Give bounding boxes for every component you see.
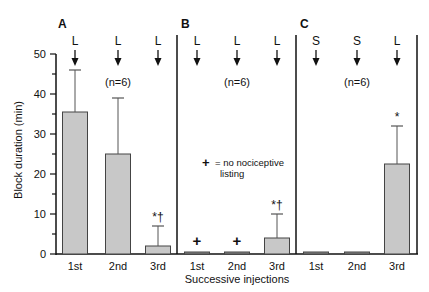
injection-label: L xyxy=(72,34,79,48)
injection-label: L xyxy=(274,34,281,48)
bar xyxy=(225,252,250,254)
no-nociceptive-marker: + xyxy=(233,232,242,249)
x-tick-label: 3rd xyxy=(150,260,166,272)
bar xyxy=(146,246,171,254)
panel-label: A xyxy=(58,17,67,31)
injection-label: L xyxy=(394,34,401,48)
injection-label: L xyxy=(115,34,122,48)
arrowhead-icon xyxy=(72,58,79,66)
arrowhead-icon xyxy=(394,58,401,66)
significance-marker: *† xyxy=(152,210,163,224)
injection-label: L xyxy=(194,34,201,48)
y-tick-label: 0 xyxy=(40,248,46,260)
y-tick-label: 40 xyxy=(34,88,46,100)
bar xyxy=(385,164,410,254)
bar xyxy=(345,252,370,254)
x-tick-label: 2nd xyxy=(109,260,127,272)
arrowhead-icon xyxy=(115,58,122,66)
axes: 01020304050 xyxy=(34,35,418,260)
injection-label: L xyxy=(155,34,162,48)
significance-marker: * xyxy=(395,110,400,124)
n-label: (n=6) xyxy=(344,76,370,88)
arrowhead-icon xyxy=(234,58,241,66)
bar xyxy=(106,154,131,254)
arrowhead-icon xyxy=(155,58,162,66)
x-tick-label: 1st xyxy=(190,260,205,272)
injection-label: S xyxy=(353,34,361,48)
panel-label: B xyxy=(181,17,190,31)
x-tick-label: 3rd xyxy=(389,260,405,272)
significance-marker: *† xyxy=(271,198,282,212)
x-tick-label: 1st xyxy=(309,260,324,272)
n-label: (n=6) xyxy=(224,76,250,88)
x-tick-label: 3rd xyxy=(269,260,285,272)
y-axis-label: Block duration (min) xyxy=(12,101,24,199)
y-tick-label: 10 xyxy=(34,208,46,220)
legend-note: + = no nociceptive listing xyxy=(202,155,284,179)
legend-plus-symbol: + xyxy=(202,155,210,170)
panel-label: C xyxy=(300,17,309,31)
n-label: (n=6) xyxy=(105,76,131,88)
bar xyxy=(304,252,329,254)
no-nociceptive-marker: + xyxy=(193,232,202,249)
x-axis-label: Successive injections xyxy=(185,273,290,285)
y-tick-label: 50 xyxy=(34,48,46,60)
legend-text-line1: = no nociceptive xyxy=(215,157,284,168)
y-tick-label: 20 xyxy=(34,168,46,180)
panel-c: C(n=6)S1stS2ndL*3rd xyxy=(300,17,410,272)
panels: A(n=6)L1stL2ndL*†3rdB(n=6)L+1stL+2ndL*†3… xyxy=(58,17,410,272)
arrowhead-icon xyxy=(194,58,201,66)
arrowhead-icon xyxy=(354,58,361,66)
arrowhead-icon xyxy=(313,58,320,66)
injection-label: L xyxy=(234,34,241,48)
x-tick-label: 2nd xyxy=(348,260,366,272)
x-tick-label: 1st xyxy=(68,260,83,272)
arrowhead-icon xyxy=(274,58,281,66)
injection-label: S xyxy=(312,34,320,48)
bar xyxy=(185,252,210,254)
x-tick-label: 2nd xyxy=(228,260,246,272)
panel-b: B(n=6)L+1stL+2ndL*†3rd xyxy=(181,17,290,272)
bar xyxy=(63,112,88,254)
legend-text-line2: listing xyxy=(220,168,244,179)
y-tick-label: 30 xyxy=(34,128,46,140)
bar xyxy=(265,238,290,254)
bar-chart: 01020304050 A(n=6)L1stL2ndL*†3rdB(n=6)L+… xyxy=(0,0,429,292)
panel-a: A(n=6)L1stL2ndL*†3rd xyxy=(58,17,171,272)
